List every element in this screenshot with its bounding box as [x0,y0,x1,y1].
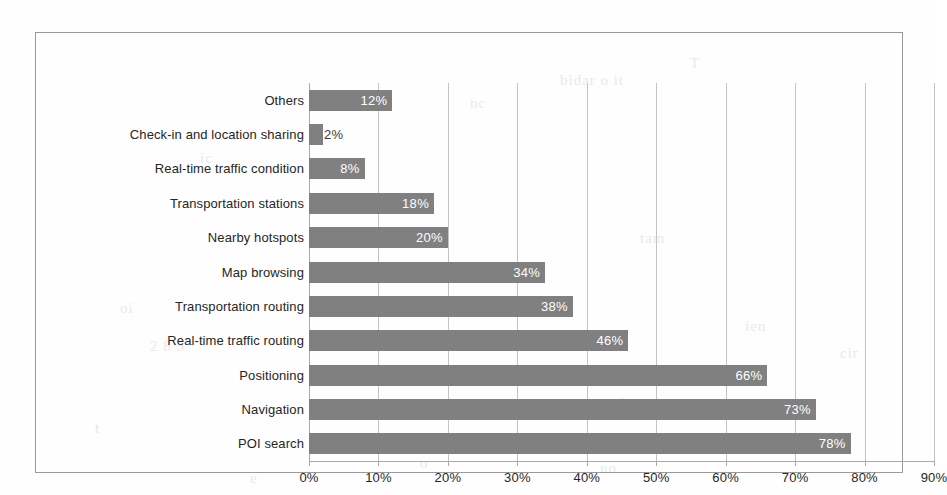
x-tick-label: 80% [851,470,878,485]
axis-tick-10pct [378,461,379,466]
category-label: Map browsing [44,265,304,280]
category-axis: OthersCheck-in and location sharingReal-… [36,83,304,461]
bar[interactable]: 66% [309,365,767,386]
axis-tick-50pct [656,461,657,466]
axis-tick-70pct [795,461,796,466]
bar-row: 20% [309,220,934,254]
x-tick-label: 30% [504,470,531,485]
category-label: Transportation routing [44,299,304,314]
x-tick-label: 60% [712,470,739,485]
bar-value-label: 18% [402,196,434,211]
x-tick-label: 10% [365,470,392,485]
category-label: Check-in and location sharing [44,127,304,142]
bar-row: 8% [309,152,934,186]
bar[interactable]: 18% [309,193,434,214]
bar-value-label: 34% [513,265,545,280]
bar[interactable]: 34% [309,262,545,283]
x-axis-baseline [309,461,935,462]
category-label: Navigation [44,402,304,417]
bar-value-label: 78% [819,436,851,451]
axis-tick-20pct [448,461,449,466]
category-label-slot: Check-in and location sharing [36,117,304,151]
category-label-slot: Nearby hotspots [36,220,304,254]
bar-value-label: 38% [541,299,573,314]
category-label-slot: POI search [36,427,304,461]
category-label: Real-time traffic condition [44,161,304,176]
bar-row: 34% [309,255,934,289]
bar[interactable]: 12% [309,90,392,111]
axis-tick-30pct [517,461,518,466]
bar[interactable]: 2% [309,124,323,145]
bar-value-label: 8% [340,161,364,176]
bar[interactable]: 20% [309,227,448,248]
category-label: Nearby hotspots [44,230,304,245]
x-axis-tick-labels: 0%10%20%30%40%50%60%70%80%90% [36,470,902,494]
bar-value-label: 73% [784,402,816,417]
x-tick-label: 50% [643,470,670,485]
chart-frame: OthersCheck-in and location sharingReal-… [35,32,903,473]
category-label: Transportation stations [44,196,304,211]
category-label: Real-time traffic routing [44,333,304,348]
axis-tick-60pct [726,461,727,466]
bar-row: 12% [309,83,934,117]
x-tick-label: 20% [435,470,462,485]
bar-value-label: 2% [323,127,343,142]
category-label-slot: Map browsing [36,255,304,289]
x-tick-label: 40% [573,470,600,485]
x-tick-label: 0% [299,470,318,485]
bar-row: 46% [309,324,934,358]
category-label-slot: Real-time traffic routing [36,324,304,358]
category-label: POI search [44,436,304,451]
bar[interactable]: 8% [309,158,365,179]
category-label: Others [44,93,304,108]
bar[interactable]: 73% [309,399,816,420]
bar-row: 66% [309,358,934,392]
category-label-slot: Navigation [36,392,304,426]
x-tick-label: 90% [921,470,947,485]
gridline-90pct [934,83,935,461]
bar-row: 78% [309,427,934,461]
bar-row: 2% [309,117,934,151]
bar-value-label: 66% [735,368,767,383]
axis-tick-90pct [934,461,935,466]
category-label-slot: Transportation stations [36,186,304,220]
bar-row: 73% [309,392,934,426]
category-label-slot: Positioning [36,358,304,392]
plot-area: 12%2%8%18%20%34%38%46%66%73%78% [309,83,934,461]
bar-row: 18% [309,186,934,220]
category-label-slot: Others [36,83,304,117]
axis-tick-80pct [865,461,866,466]
bar[interactable]: 46% [309,330,628,351]
axis-tick-0pct [309,461,310,466]
category-label: Positioning [44,368,304,383]
x-tick-label: 70% [782,470,809,485]
bar[interactable]: 78% [309,433,851,454]
bar-value-label: 12% [360,93,392,108]
bar[interactable]: 38% [309,296,573,317]
bar-row: 38% [309,289,934,323]
category-label-slot: Transportation routing [36,289,304,323]
bar-value-label: 46% [597,333,629,348]
category-label-slot: Real-time traffic condition [36,152,304,186]
axis-tick-40pct [587,461,588,466]
bar-value-label: 20% [416,230,448,245]
